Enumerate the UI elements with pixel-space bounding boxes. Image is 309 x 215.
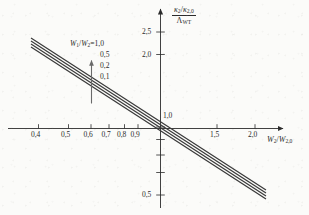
legend-header: W1/W2=1,0: [70, 40, 104, 48]
y-tick-label-2p5: 2,5: [142, 28, 151, 36]
y-axis-title-numerator: κ2/κ2,0: [172, 5, 196, 16]
data-line-w1w2-0p1: [31, 47, 266, 199]
legend-value-0p2: 0,2: [100, 62, 110, 70]
legend-value-0p5: 0,5: [100, 51, 110, 59]
x-tick-label-1: 0,5: [61, 131, 70, 139]
chart-figure: 0,4 0,5 0,6 0,7 0,8 0,9 1,5 2,0 2,5 2,0 …: [0, 0, 309, 215]
plot-canvas: [0, 0, 309, 215]
data-line-w1w2-0p2: [31, 44, 266, 196]
data-line-band: [31, 38, 266, 199]
x-axis: [8, 124, 283, 128]
y-axis-title: κ2/κ2,0 ΛWT: [172, 5, 196, 25]
x-tick-label-3: 0,7: [102, 131, 111, 139]
x-tick-label-0: 0,4: [31, 131, 40, 139]
x-axis-title: W2/W2,0: [267, 136, 292, 145]
data-line-w1w2-0p5: [31, 41, 266, 193]
y-tick-label-1p0: 1,0: [163, 112, 172, 120]
y-axis-title-denominator: ΛWT: [172, 16, 196, 26]
x-tick-label-2: 0,6: [84, 131, 93, 139]
legend-value-0p1: 0,1: [100, 73, 110, 81]
x-tick-label-7: 2,0: [248, 131, 257, 139]
y-tick-label-0p5: 0,5: [142, 191, 151, 199]
data-line-w1w2-1p0: [31, 38, 266, 190]
x-tick-label-4: 0,8: [117, 131, 126, 139]
y-tick-label-2p0: 2,0: [142, 51, 151, 59]
y-axis: [156, 9, 165, 208]
x-tick-label-6: 1,5: [210, 131, 219, 139]
x-tick-label-5: 0,9: [131, 131, 140, 139]
